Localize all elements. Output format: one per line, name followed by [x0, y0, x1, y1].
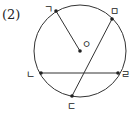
problem-number: (2): [2, 7, 20, 22]
radius-segment: [56, 11, 80, 51]
point-g: [54, 9, 58, 13]
label-d: ㄷ: [67, 101, 76, 112]
label-m: ㅁ: [110, 6, 119, 17]
point-r: [116, 71, 120, 75]
circle-diagram: (2) ㄱ ㅁ ㅇ ㄴ ㄹ ㄷ: [0, 0, 131, 120]
point-d: [70, 94, 74, 98]
point-n: [39, 71, 43, 75]
label-r: ㄹ: [121, 69, 130, 80]
label-g: ㄱ: [44, 4, 53, 15]
chord-md: [72, 19, 112, 96]
point-m: [110, 17, 114, 21]
label-o: ㅇ: [82, 39, 91, 50]
label-n: ㄴ: [26, 69, 35, 80]
